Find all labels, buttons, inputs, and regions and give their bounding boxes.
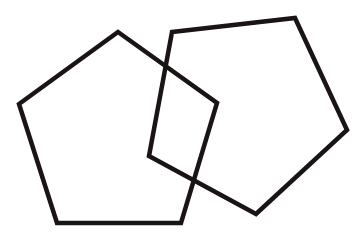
left-pentagon (19, 32, 217, 223)
diagram-canvas (0, 0, 360, 237)
right-pentagon (149, 18, 347, 214)
overlapping-pentagons (0, 0, 360, 237)
